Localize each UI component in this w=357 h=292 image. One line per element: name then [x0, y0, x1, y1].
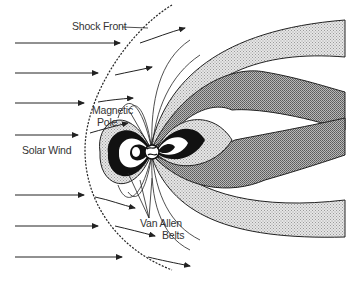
- van-allen-label: Van Allen: [140, 217, 182, 229]
- shock-front-label: Shock Front: [72, 20, 126, 32]
- magnetic-pole-label: Magnetic: [92, 104, 133, 116]
- van-allen-label-2: Belts: [162, 229, 184, 241]
- magnetic-pole-label-2: Pole: [97, 116, 117, 128]
- earth: [145, 145, 159, 159]
- solar-wind-label: Solar Wind: [22, 144, 71, 156]
